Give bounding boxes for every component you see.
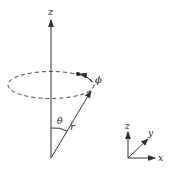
theta-label: θ bbox=[57, 116, 63, 126]
z-axis-label: z bbox=[47, 6, 54, 17]
small-x-label: x bbox=[158, 153, 163, 163]
small-z-label: z bbox=[124, 121, 130, 131]
phi-label: ϕ bbox=[95, 74, 102, 85]
reference-axes: z y x bbox=[124, 121, 163, 163]
r-label: r bbox=[70, 121, 76, 132]
phi-direction-arrow bbox=[80, 74, 92, 82]
theta-arc bbox=[51, 128, 67, 131]
small-y-axis bbox=[128, 139, 148, 158]
spherical-coordinates-diagram: z ϕ r θ z y x bbox=[0, 0, 173, 169]
point-dot bbox=[76, 72, 80, 76]
small-y-label: y bbox=[147, 128, 154, 138]
